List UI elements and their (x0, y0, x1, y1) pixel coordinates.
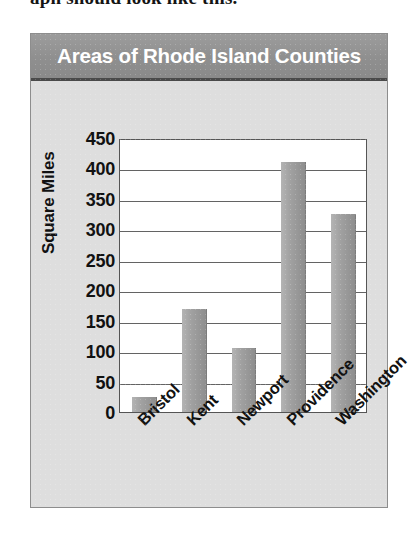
y-tick-label: 50 (57, 372, 115, 393)
y-tick-label: 150 (57, 311, 115, 332)
y-axis-title: Square Miles (39, 230, 59, 254)
y-tick-label: 400 (57, 159, 115, 180)
y-tick-label: 300 (57, 220, 115, 241)
bar-providence (281, 162, 306, 412)
page-caption-strip: aph should look like this. (0, 0, 412, 13)
y-tick-label: 0 (57, 403, 115, 424)
y-tick-label: 250 (57, 250, 115, 271)
x-axis-category-labels: BristolKentNewportProvidenceWashington (119, 416, 367, 506)
y-tick-label: 100 (57, 342, 115, 363)
caption-text: aph should look like this. (30, 0, 237, 9)
y-axis-tick-labels: 450400350300250200150100500 (57, 139, 115, 413)
y-tick-label: 200 (57, 281, 115, 302)
y-tick-label: 350 (57, 189, 115, 210)
chart-title-bar: Areas of Rhode Island Counties (31, 34, 387, 81)
chart-title: Areas of Rhode Island Counties (57, 44, 361, 68)
chart-figure: Areas of Rhode Island Counties Square Mi… (30, 33, 388, 508)
y-tick-label: 450 (57, 129, 115, 150)
chart-body: Square Miles 450400350300250200150100500… (31, 84, 387, 507)
